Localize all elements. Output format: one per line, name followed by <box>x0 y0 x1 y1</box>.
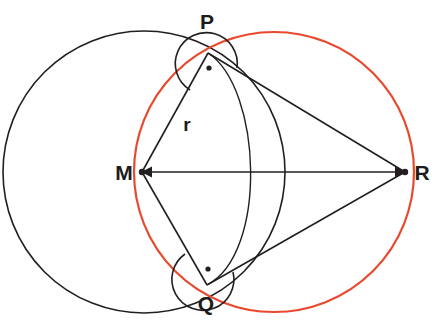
geometry-diagram: P M R Q r <box>0 0 443 323</box>
segment-p-r-tangent <box>208 53 405 172</box>
point-label-p: P <box>200 10 214 33</box>
vertex-dot-m <box>139 169 145 175</box>
right-angle-dot-at-q <box>205 266 210 271</box>
right-angle-dot-at-p <box>206 65 211 70</box>
radius-label-r: r <box>183 114 191 135</box>
point-label-r: R <box>414 161 429 184</box>
point-label-m: M <box>115 161 133 184</box>
arc-p-q-centered-at-r <box>207 53 251 285</box>
vertex-dot-r <box>402 169 408 175</box>
segment-m-p-radius <box>142 53 208 172</box>
right-angle-marker-at-p <box>175 33 237 90</box>
point-label-q: Q <box>198 292 214 315</box>
geometry-canvas: P M R Q r <box>0 0 443 323</box>
